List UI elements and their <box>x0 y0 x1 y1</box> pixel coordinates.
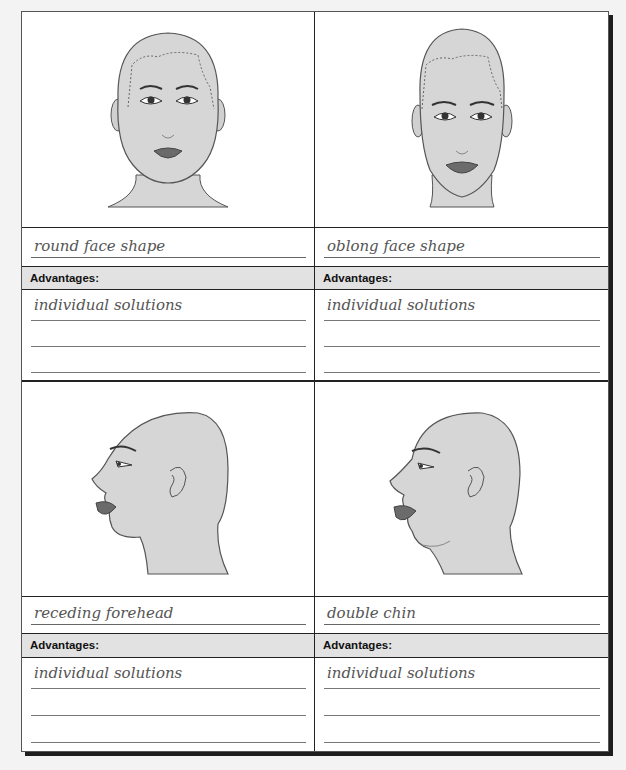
advantage-entry[interactable]: individual solutions <box>34 664 182 682</box>
advantages-lines[interactable]: individual solutions <box>22 658 314 751</box>
advantage-entry[interactable]: individual solutions <box>34 296 182 314</box>
writing-line <box>31 320 306 321</box>
writing-line <box>324 688 600 689</box>
face-shape-title[interactable]: oblong face shape <box>324 235 600 258</box>
advantages-lines[interactable]: individual solutions <box>315 658 608 751</box>
double-chin-profile-icon <box>382 399 542 579</box>
writing-line <box>31 372 306 373</box>
advantages-header: Advantages: <box>315 634 608 657</box>
title-cell: double chin <box>315 596 608 633</box>
double-chin-illustration <box>315 382 608 596</box>
advantage-entry[interactable]: individual solutions <box>327 296 475 314</box>
title-cell: receding forehead <box>22 596 314 633</box>
face-shape-title[interactable]: double chin <box>324 602 600 625</box>
title-cell: oblong face shape <box>315 227 608 266</box>
face-shape-title[interactable]: round face shape <box>31 235 306 258</box>
advantages-lines[interactable]: individual solutions <box>22 290 314 380</box>
advantages-header: Advantages: <box>315 267 608 289</box>
receding-forehead-illustration <box>22 382 314 596</box>
receding-forehead-profile-icon <box>88 399 248 579</box>
writing-line <box>324 346 600 347</box>
advantages-header: Advantages: <box>22 267 314 289</box>
worksheet-table: round face shape Advantages: individual … <box>21 11 609 752</box>
writing-line <box>324 320 600 321</box>
writing-line <box>31 742 306 743</box>
writing-line <box>31 715 306 716</box>
advantages-header: Advantages: <box>22 634 314 657</box>
writing-line <box>324 715 600 716</box>
face-shape-title[interactable]: receding forehead <box>31 602 306 625</box>
writing-line <box>324 742 600 743</box>
advantage-entry[interactable]: individual solutions <box>327 664 475 682</box>
round-face-illustration <box>22 12 314 227</box>
writing-line <box>31 346 306 347</box>
writing-line <box>31 688 306 689</box>
round-face-front-icon <box>98 25 238 215</box>
oblong-face-front-icon <box>392 25 532 215</box>
title-cell: round face shape <box>22 227 314 266</box>
advantages-lines[interactable]: individual solutions <box>315 290 608 380</box>
writing-line <box>324 372 600 373</box>
oblong-face-illustration <box>315 12 608 227</box>
